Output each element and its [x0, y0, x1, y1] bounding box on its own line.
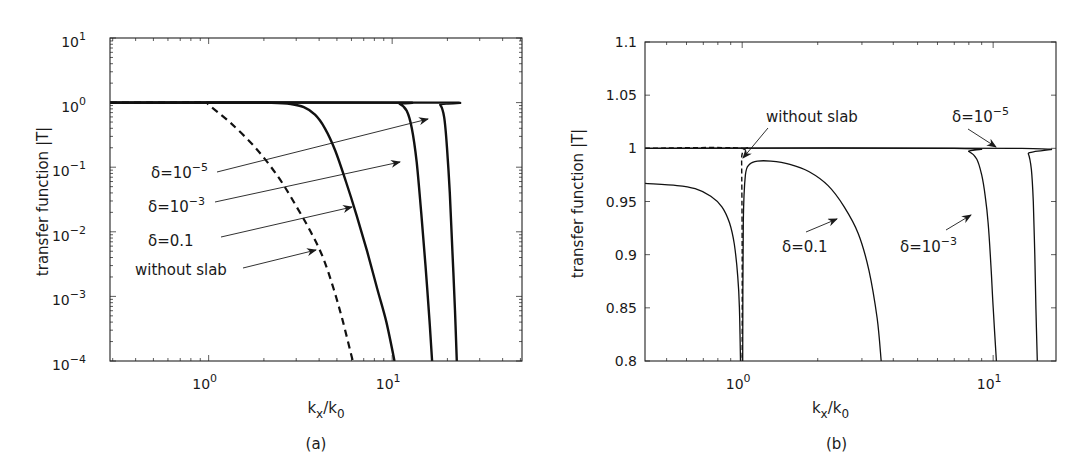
axis-ticks: [645, 42, 1056, 361]
x-tick-label: 100: [726, 372, 751, 392]
x-tick-label: 100: [192, 372, 217, 392]
annotation-arrow-icon: [215, 162, 400, 202]
y-tick-label: 0.85: [606, 300, 637, 316]
panel-label: (b): [826, 435, 847, 453]
y-tick-label: 10−3: [52, 288, 86, 308]
panel-b-chart: 1001011.11.0510.950.90.850.8kx​/k0​trans…: [569, 34, 1056, 453]
series-group: [645, 148, 1052, 361]
y-tick-label: 10−2: [52, 224, 86, 244]
annotation-label: δ=10−5: [151, 161, 208, 182]
panel-label: (a): [306, 435, 327, 453]
series-without-slab: [110, 102, 353, 361]
x-axis-title: kx​/k0​: [307, 399, 344, 421]
annotation-label: without slab: [135, 261, 227, 279]
x-axis-title: kx​/k0​: [812, 399, 849, 421]
x-tick-label: 101: [376, 372, 401, 392]
annotation-label: δ=10−3: [900, 235, 957, 256]
annotation-label: δ=0.1: [782, 238, 828, 256]
figure-canvas: 10010110110010−110−210−310−4kx​/k0​trans…: [0, 0, 1075, 470]
axes-box: [645, 42, 1056, 361]
annotation-arrow-icon: [217, 119, 428, 172]
annotation-label: without slab: [766, 108, 858, 126]
annotation-arrow-icon: [968, 129, 996, 147]
annotation-label: δ=0.1: [148, 232, 194, 250]
annotation-arrow-icon: [221, 207, 352, 237]
y-tick-label: 0.8: [615, 353, 637, 369]
annotation-label: δ=10−3: [148, 195, 205, 216]
panel-a-chart: 10010110110010−110−210−310−4kx​/k0​trans…: [34, 30, 522, 453]
y-axis-title: transfer function |T|: [34, 127, 52, 276]
annotation-label: δ=10−5: [952, 105, 1009, 126]
tick-labels: 10010110110010−110−210−310−4: [52, 30, 401, 392]
annotations: δ=10−5δ=10−3δ=0.1without slab: [135, 119, 428, 279]
annotations: without slabδ=10−5δ=0.1δ=10−3: [743, 105, 1009, 256]
series-without-slab: [645, 148, 748, 361]
series--0-1: [743, 161, 882, 361]
annotation-arrow-icon: [743, 128, 768, 158]
y-axis-title: transfer function |T|: [569, 129, 587, 278]
y-tick-label: 10−1: [52, 159, 86, 179]
annotation-arrow-icon: [946, 215, 971, 230]
y-tick-label: 0.9: [615, 247, 637, 263]
y-tick-label: 1.05: [606, 87, 637, 103]
figure: 10010110110010−110−210−310−4kx​/k0​trans…: [0, 0, 1075, 470]
annotation-arrow-icon: [806, 219, 837, 232]
y-tick-label: 10−4: [52, 353, 86, 373]
annotation-arrow-icon: [243, 250, 316, 268]
series--0-1-below-k0-: [645, 183, 741, 361]
y-tick-label: 100: [61, 95, 86, 115]
y-tick-label: 0.95: [606, 194, 637, 210]
y-tick-label: 1.1: [615, 34, 637, 50]
y-tick-label: 101: [61, 30, 86, 50]
tick-labels: 1001011.11.0510.950.90.850.8: [606, 34, 1002, 392]
y-tick-label: 1: [628, 140, 637, 156]
x-tick-label: 101: [977, 372, 1002, 392]
